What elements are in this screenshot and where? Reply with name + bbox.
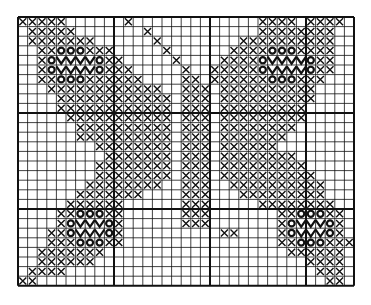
cross-stitch <box>269 28 276 35</box>
cross-stitch <box>48 229 55 236</box>
cross-stitch <box>115 201 122 208</box>
cross-stitch <box>230 47 237 54</box>
cross-stitch <box>250 37 257 44</box>
cross-stitch <box>77 191 84 198</box>
cross-stitch <box>96 114 103 121</box>
cross-stitch <box>240 133 247 140</box>
cross-stitch <box>307 18 314 25</box>
cross-stitch <box>221 172 228 179</box>
cross-stitch <box>96 47 103 54</box>
cross-stitch <box>67 249 74 256</box>
cross-stitch <box>96 76 103 83</box>
cross-stitch <box>125 143 132 150</box>
cross-stitch <box>67 239 74 246</box>
cross-stitch <box>250 85 257 92</box>
cross-stitch <box>192 210 199 217</box>
cross-stitch <box>269 181 276 188</box>
cross-stitch <box>87 201 94 208</box>
cross-stitch <box>125 153 132 160</box>
circle-stitch <box>289 220 295 226</box>
cross-stitch <box>58 249 65 256</box>
cross-stitch <box>144 114 151 121</box>
cross-stitch <box>230 153 237 160</box>
cross-stitch <box>183 114 190 121</box>
cross-stitch <box>163 105 170 112</box>
zigzag-stitch <box>76 220 86 227</box>
circle-stitch <box>58 48 64 54</box>
cross-stitch <box>48 239 55 246</box>
cross-stitch <box>269 172 276 179</box>
cross-stitch <box>298 37 305 44</box>
circle-stitch <box>308 67 314 73</box>
cross-stitch <box>39 18 46 25</box>
cross-stitch <box>298 162 305 169</box>
cross-stitch <box>192 220 199 227</box>
cross-stitch <box>87 181 94 188</box>
cross-stitch <box>250 172 257 179</box>
zigzag-stitch <box>306 220 316 227</box>
cross-stitch <box>298 95 305 102</box>
cross-stitch <box>154 153 161 160</box>
zigzag-stitch <box>296 66 306 73</box>
cross-stitch <box>259 105 266 112</box>
cross-stitch <box>135 172 142 179</box>
cross-stitch <box>106 210 113 217</box>
cross-stitch <box>115 95 122 102</box>
cross-stitch <box>67 210 74 217</box>
cross-stitch <box>58 28 65 35</box>
cross-stitch <box>115 239 122 246</box>
cross-stitch <box>336 239 343 246</box>
cross-stitch <box>288 201 295 208</box>
zigzag-stitch <box>85 220 95 227</box>
cross-stitch <box>106 239 113 246</box>
zigzag-stitch <box>76 229 86 236</box>
cross-stitch <box>115 76 122 83</box>
cross-stitch <box>221 66 228 73</box>
cross-stitch <box>336 220 343 227</box>
zigzag-stitch <box>296 229 306 236</box>
circle-stitch <box>77 76 83 82</box>
cross-stitch <box>154 143 161 150</box>
cross-stitch <box>154 95 161 102</box>
circle-stitch <box>97 240 103 246</box>
cross-stitch <box>250 143 257 150</box>
cross-stitch <box>39 37 46 44</box>
zigzag-stitch <box>66 66 76 73</box>
cross-stitch <box>106 133 113 140</box>
cross-stitch <box>77 201 84 208</box>
cross-stitch <box>202 201 209 208</box>
cross-stitch <box>58 268 65 275</box>
cross-stitch <box>163 153 170 160</box>
cross-stitch <box>240 124 247 131</box>
cross-stitch <box>326 249 333 256</box>
cross-stitch <box>125 172 132 179</box>
cross-stitch <box>221 114 228 121</box>
cross-stitch <box>125 114 132 121</box>
cross-stitch <box>202 95 209 102</box>
cross-stitch <box>183 124 190 131</box>
cross-stitch <box>288 18 295 25</box>
cross-stitch <box>135 162 142 169</box>
cross-stitch <box>307 249 314 256</box>
cross-stitch <box>269 191 276 198</box>
cross-stitch <box>269 114 276 121</box>
circle-stitch <box>308 57 314 63</box>
circle-stitch <box>317 240 323 246</box>
cross-stitch <box>317 268 324 275</box>
cross-stitch <box>106 57 113 64</box>
cross-stitch <box>39 268 46 275</box>
cross-stitch <box>192 172 199 179</box>
cross-stitch <box>87 124 94 131</box>
cross-stitch <box>211 76 218 83</box>
cross-stitch <box>106 172 113 179</box>
cross-stitch <box>58 210 65 217</box>
cross-stitch <box>58 239 65 246</box>
cross-stitch <box>29 28 36 35</box>
cross-stitch <box>115 133 122 140</box>
cross-stitch <box>278 114 285 121</box>
cross-stitch <box>269 85 276 92</box>
cross-stitch <box>39 66 46 73</box>
cross-stitch <box>135 181 142 188</box>
cross-stitch <box>163 47 170 54</box>
cross-stitch <box>202 191 209 198</box>
